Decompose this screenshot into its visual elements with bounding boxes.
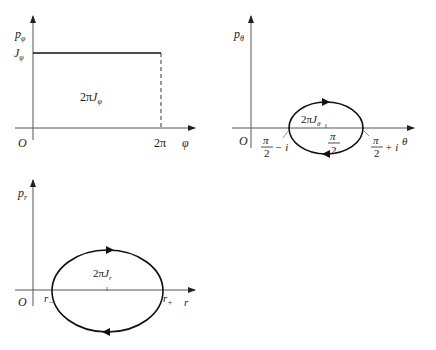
x-tick-2pi: 2π	[154, 136, 166, 150]
svg-text:− i: − i	[275, 141, 288, 153]
r-plus-label: r+	[163, 292, 173, 307]
direction-arrow-top	[106, 246, 114, 254]
plot-phi: pφ Jφ 2πJφ O 2π φ	[14, 16, 195, 150]
origin-label: O	[239, 134, 248, 148]
plot-theta: pθ 2πJθ O θ π 2 − i π 2 π 2 + i	[232, 16, 414, 159]
svg-text:2: 2	[331, 144, 337, 156]
y-axis-label: pφ	[14, 27, 26, 43]
origin-label: O	[18, 136, 27, 150]
x-axis-label: φ	[182, 136, 189, 150]
level-label: Jφ	[14, 46, 24, 62]
svg-text:2: 2	[374, 147, 380, 159]
area-label: 2πJθ	[301, 113, 321, 128]
phase-orbit	[52, 250, 163, 332]
svg-text:π: π	[263, 134, 269, 146]
svg-text:π: π	[330, 130, 336, 142]
direction-arrow-bottom	[102, 328, 110, 336]
svg-text:π: π	[373, 134, 379, 146]
x-axis-label: r	[184, 296, 189, 308]
svg-text:2: 2	[264, 147, 270, 159]
direction-arrow-top	[322, 98, 330, 106]
phase-space-diagrams: pφ Jφ 2πJφ O 2π φ pθ 2πJθ O θ π 2 − i π …	[0, 0, 436, 350]
area-label: 2πJφ	[80, 90, 102, 106]
plot-r: pr 2πJr O r− r+ r	[15, 180, 195, 336]
right-leader	[363, 130, 369, 136]
svg-text:+ i: + i	[385, 141, 398, 153]
x-axis-label: θ	[402, 135, 408, 147]
tick-label-right: π 2 + i	[371, 134, 398, 159]
y-axis-label: pr	[17, 186, 28, 202]
left-leader	[283, 130, 289, 138]
y-axis-label: pθ	[233, 27, 244, 43]
tick-label-left: π 2 − i	[261, 134, 288, 159]
direction-arrow-bottom	[322, 150, 330, 158]
area-label: 2πJr	[93, 267, 112, 282]
origin-label: O	[18, 295, 27, 309]
